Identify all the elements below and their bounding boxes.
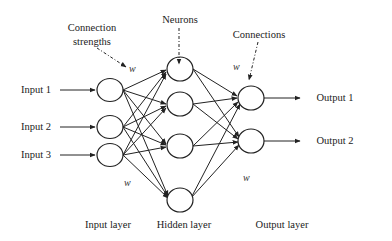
output-arrows — [264, 98, 300, 141]
hidden-layer-nodes — [167, 57, 193, 212]
output-layer-nodes — [238, 86, 264, 153]
output-layer-label: Output layer — [256, 219, 309, 230]
input-node-2 — [97, 116, 123, 139]
connections-label: Connections — [233, 29, 286, 40]
input-node-3 — [97, 144, 123, 167]
input-3-label: Input 3 — [21, 149, 51, 160]
hidden-output-connections — [191, 69, 240, 198]
weight-label-3: w — [124, 177, 131, 188]
connections-pointer — [249, 42, 258, 80]
weight-label-4: w — [243, 172, 250, 183]
hidden-node-1 — [167, 57, 193, 81]
hidden-layer-label: Hidden layer — [157, 219, 212, 230]
input-layer-label: Input layer — [85, 219, 131, 230]
hidden-node-2 — [167, 92, 193, 116]
output-2-label: Output 2 — [316, 135, 353, 146]
connection-strengths-pointer — [97, 48, 126, 67]
neural-network-diagram: Input 1 Input 2 Input 3 Output 1 Output … — [0, 0, 392, 241]
input-arrows — [60, 90, 95, 155]
hidden-node-3 — [167, 134, 193, 158]
hidden-node-4 — [167, 188, 193, 212]
neurons-label: Neurons — [162, 14, 198, 25]
connection-strengths-label-line2: strengths — [73, 36, 111, 47]
output-1-label: Output 1 — [316, 92, 353, 103]
connection-strengths-label-line1: Connection — [68, 22, 117, 33]
output-node-1 — [238, 86, 264, 110]
input-node-1 — [97, 79, 123, 102]
weight-label-1: w — [129, 63, 136, 74]
weight-label-2: w — [233, 61, 240, 72]
input-2-label: Input 2 — [21, 121, 51, 132]
output-node-2 — [238, 129, 264, 153]
input-layer-nodes — [97, 79, 123, 167]
input-1-label: Input 1 — [21, 84, 51, 95]
